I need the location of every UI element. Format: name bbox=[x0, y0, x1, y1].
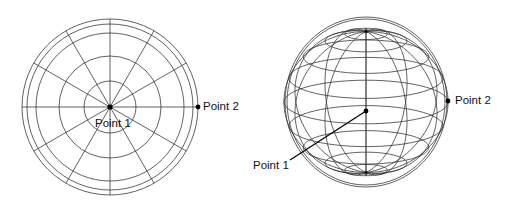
right-point2-dot bbox=[446, 99, 451, 104]
right-point2-label: Point 2 bbox=[455, 95, 491, 107]
diagram-canvas bbox=[0, 0, 507, 206]
left-point2-label: Point 2 bbox=[203, 101, 239, 113]
left-point2-dot bbox=[196, 105, 201, 110]
right-point1-dot bbox=[364, 109, 369, 114]
left-point1-dot bbox=[107, 104, 112, 109]
left-point1-label: Point 1 bbox=[95, 118, 131, 130]
right-point1-label: Point 1 bbox=[253, 160, 289, 172]
sphere-wireframe bbox=[284, 17, 448, 187]
